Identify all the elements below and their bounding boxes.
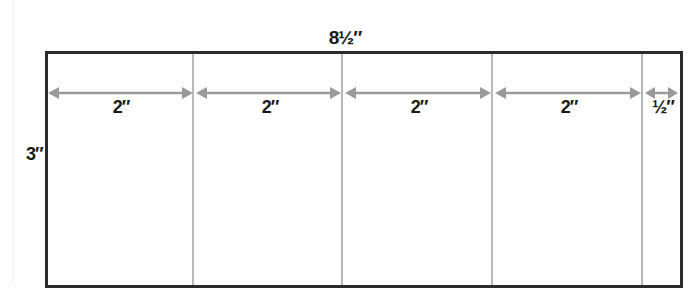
fold-line-2 — [341, 54, 343, 285]
overall-width-label: 8½″ — [329, 27, 362, 49]
segment-label-4: 2″ — [561, 97, 578, 118]
segment-label-5: ½″ — [652, 97, 674, 118]
fold-line-3 — [491, 54, 493, 285]
segment-label-3: 2″ — [411, 97, 428, 118]
margin-line — [13, 0, 14, 285]
segment-label-1: 2″ — [113, 97, 130, 118]
height-label: 3″ — [26, 144, 43, 165]
fold-line-4 — [641, 54, 643, 285]
segment-label-2: 2″ — [262, 97, 279, 118]
